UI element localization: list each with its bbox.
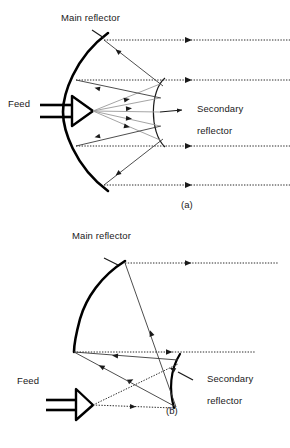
panel-caption-a: (a): [181, 199, 193, 210]
feed-horn-a: [40, 96, 93, 126]
feed-ray-arrows-b: [127, 377, 136, 409]
figure-panel-a: Main reflector Feed Secondary reflector …: [0, 0, 290, 224]
output-beam-arrows-b: [166, 260, 192, 355]
secondary-to-main-ray-arrows-b: [112, 329, 155, 358]
output-beam-rays-a: [76, 40, 290, 185]
secondary-reflector-label-a-line2: reflector: [197, 125, 232, 136]
secondary-reflector-label-a-line1: Secondary: [197, 103, 243, 114]
main-reflector-label-b: Main reflector: [72, 230, 131, 241]
secondary-to-main-rays-b: [74, 263, 178, 407]
secondary-reflector-label-b-line1: Secondary: [207, 373, 253, 384]
main-reflector-arc-a: [63, 33, 108, 191]
feed-horn-b: [46, 389, 93, 420]
diagram-a-canvas: [0, 0, 290, 224]
feed-ray-fan-a: [93, 84, 160, 140]
secondary-reflector-arc-b: [171, 354, 180, 408]
main-reflector-label-a: Main reflector: [61, 12, 120, 23]
secondary-reflector-label-b-line2: reflector: [207, 395, 242, 406]
feed-label-b: Feed: [17, 375, 39, 386]
secondary-reflector-label-a: Secondary reflector: [186, 92, 243, 147]
feed-label-a: Feed: [8, 98, 30, 109]
secondary-reflector-arc-a: [153, 78, 165, 147]
secondary-reflector-leader-a: [160, 110, 182, 112]
main-reflector-leader-b: [104, 258, 118, 265]
panel-caption-b: (b): [166, 405, 178, 416]
main-reflector-arc-b: [74, 261, 125, 352]
main-to-secondary-cross-ray-arrow-b: [97, 363, 105, 370]
main-to-secondary-cross-ray-b: [74, 352, 176, 407]
main-reflector-leader-a: [92, 30, 104, 38]
feed-ray-arrows-a: [124, 96, 133, 129]
figure-panel-b: Main reflector Feed Secondary reflector …: [0, 224, 290, 448]
secondary-reflector-label-b: Secondary reflector: [196, 362, 253, 417]
